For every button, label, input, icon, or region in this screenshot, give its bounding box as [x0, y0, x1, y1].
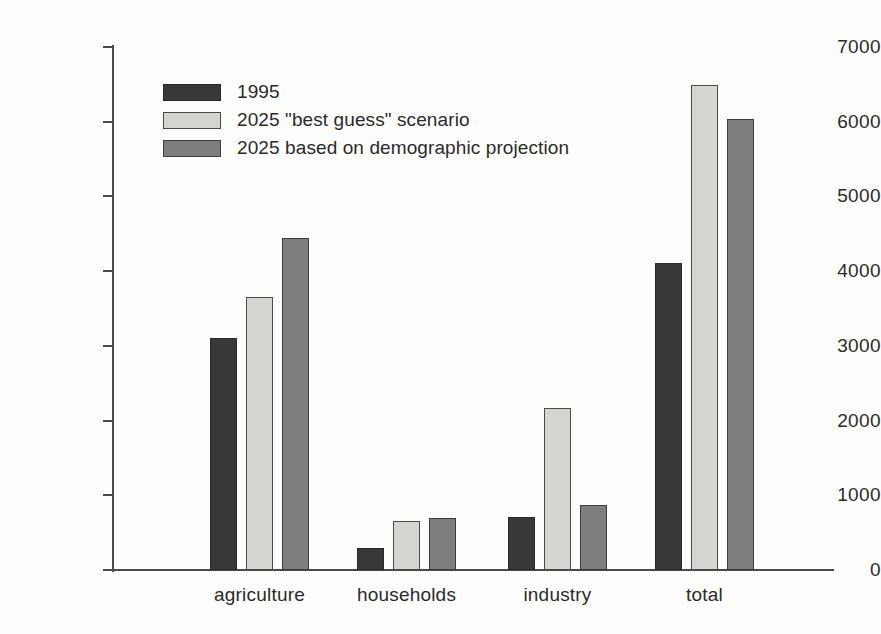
- bar-agriculture-series-2: [246, 297, 273, 570]
- bar-agriculture-series-3: [282, 238, 309, 570]
- bar-total-series-1: [655, 263, 682, 570]
- y-axis-tick: [103, 46, 113, 48]
- bar-industry-series-1: [508, 517, 535, 570]
- legend-item-label: 2025 "best guess" scenario: [237, 109, 470, 131]
- x-axis-label-agriculture: agriculture: [214, 584, 305, 606]
- y-axis-tick: [103, 345, 113, 347]
- legend-swatch-1995: [163, 84, 221, 101]
- y-axis-tick: [103, 195, 113, 197]
- legend-item-label: 2025 based on demographic projection: [237, 137, 569, 159]
- y-axis-tick: [103, 494, 113, 496]
- legend-swatch-demographic: [163, 140, 221, 157]
- bar-households-series-2: [393, 521, 420, 570]
- x-axis-label-households: households: [357, 584, 456, 606]
- legend-item: 1995: [163, 79, 569, 105]
- bar-industry-series-3: [580, 505, 607, 570]
- bar-agriculture-series-1: [210, 338, 237, 570]
- bar-households-series-1: [357, 548, 384, 570]
- bar-total-series-3: [727, 119, 754, 570]
- y-axis-tick: [103, 121, 113, 123]
- y-axis-tick: [103, 420, 113, 422]
- chart-legend: 19952025 "best guess" scenario2025 based…: [163, 79, 569, 163]
- bar-households-series-3: [429, 518, 456, 570]
- legend-item: 2025 based on demographic projection: [163, 135, 569, 161]
- x-axis-label-industry: industry: [523, 584, 591, 606]
- bar-industry-series-2: [544, 408, 571, 570]
- bar-total-series-2: [691, 85, 718, 570]
- bar-chart: 01000200030004000500060007000 agricultur…: [0, 0, 881, 634]
- legend-item: 2025 "best guess" scenario: [163, 107, 569, 133]
- x-axis-label-total: total: [686, 584, 723, 606]
- legend-item-label: 1995: [237, 81, 280, 103]
- y-axis-tick: [103, 569, 113, 571]
- legend-swatch-best-guess: [163, 112, 221, 129]
- y-axis-tick: [103, 270, 113, 272]
